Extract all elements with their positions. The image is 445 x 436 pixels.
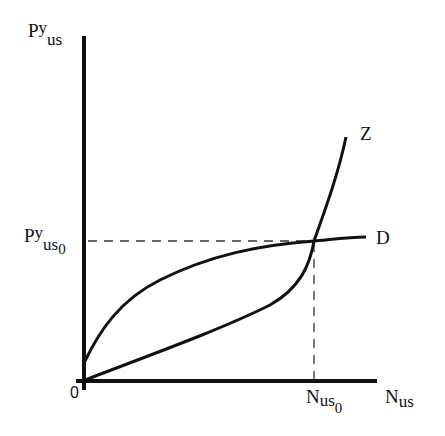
curve-d [85,237,366,361]
y-axis-label-sub: us [47,30,62,49]
y-eq-label-main: P [24,225,35,246]
y-equilibrium-label: Pyus0 [24,225,66,247]
y-eq-label-y: y [35,223,44,242]
y-eq-label-index: 0 [58,241,66,257]
y-axis-label-main: P [28,20,39,41]
x-eq-label-sub: us [320,391,335,410]
origin-label: 0 [70,384,79,402]
x-eq-label-main: N [306,386,320,407]
curve-d-label: D [376,227,390,249]
y-axis-label-y: y [39,18,48,37]
x-equilibrium-label: Nus0 [306,386,342,408]
x-axis-label-main: N [385,386,399,407]
x-axis-label-sub: us [399,392,414,411]
y-axis-label: Pyus [28,20,62,42]
x-eq-label-index: 0 [335,400,343,416]
curve-z-label: Z [360,123,372,145]
y-eq-label-sub: us [43,235,58,254]
chart-canvas [0,0,445,436]
x-axis-label: Nus [385,386,414,408]
